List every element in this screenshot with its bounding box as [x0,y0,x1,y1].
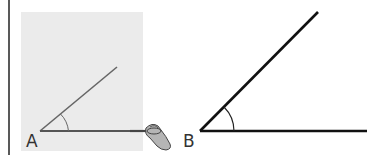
angle-b [200,12,367,131]
angle-copy-diagram: A B [0,0,385,155]
angle-b-upper-ray [200,12,318,131]
vertex-label-b: B [183,133,195,150]
angle-b-arc [224,107,234,131]
vertex-label-a: A [26,133,38,150]
